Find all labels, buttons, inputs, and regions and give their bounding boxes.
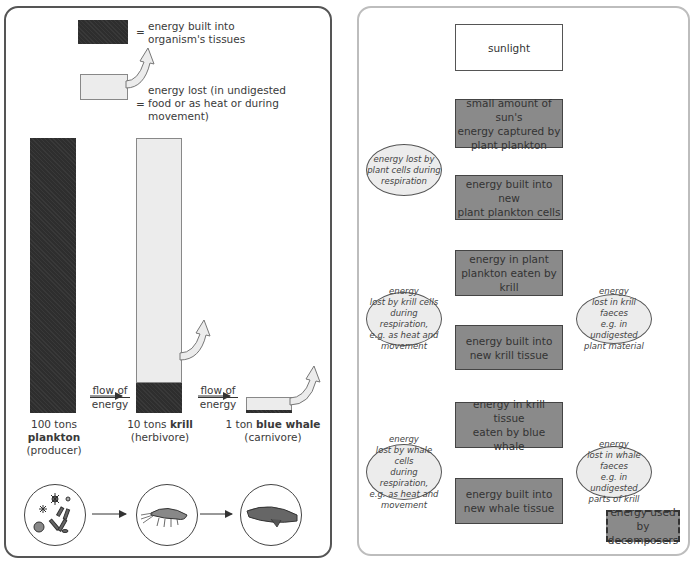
legend-light-line2: food or as heat or during bbox=[148, 97, 286, 110]
krill-tissue-box: energy built into new krill tissue bbox=[455, 325, 563, 370]
plant-cells-box: energy built into new plant plankton cel… bbox=[455, 175, 563, 220]
loss-krill-resp-l3: during respiration, bbox=[367, 308, 441, 330]
legend-dark-swatch bbox=[78, 20, 128, 44]
legend-dark-label: energy built into organism's tissues bbox=[148, 20, 245, 46]
level-whale-label: 1 ton blue whale (carnivore) bbox=[218, 418, 328, 444]
loss-whale-faeces-l4: parts of krill bbox=[577, 494, 651, 505]
flow-of-energy-label-1: flow of energy bbox=[90, 384, 130, 411]
loss-whale-faeces-l1: energy bbox=[577, 439, 651, 450]
captured-line2: energy captured by bbox=[456, 124, 562, 138]
loss-plant-l2: plant cells during bbox=[367, 165, 441, 176]
flow-label-line2: energy bbox=[198, 398, 238, 411]
loss-whale-resp-l5: movement bbox=[367, 500, 441, 511]
loss-whale-faeces-l2: lost in whale faeces bbox=[577, 450, 651, 472]
plankton-name: plankton bbox=[28, 431, 80, 443]
legend-light-line3: movement) bbox=[148, 110, 286, 123]
krill-amount: 10 tons bbox=[127, 418, 166, 430]
sunlight-label: sunlight bbox=[488, 41, 530, 55]
loss-krill-faeces-l3: e.g. in undigested bbox=[577, 319, 651, 341]
loss-whale-faeces-ellipse: energy lost in whale faeces e.g. in undi… bbox=[576, 446, 652, 498]
loss-krill-resp-l5: movement bbox=[367, 341, 441, 352]
legend-light-label: energy lost (in undigested food or as he… bbox=[148, 84, 286, 123]
decomposers-box: energy used by decomposers bbox=[606, 510, 680, 542]
krill-icon bbox=[136, 484, 198, 546]
energy-pyramid-panel: = energy built into organism's tissues =… bbox=[4, 6, 332, 558]
loss-whale-faeces-l3: e.g. in undigested bbox=[577, 472, 651, 494]
legend-equals-2: = bbox=[136, 98, 145, 111]
loss-krill-faeces-l2: lost in krill faeces bbox=[577, 297, 651, 319]
krill-lost-bar bbox=[136, 138, 182, 383]
loss-whale-resp-l4: e.g. as heat and bbox=[367, 489, 441, 500]
whale-built-bar bbox=[246, 410, 292, 413]
decomposers-line2: decomposers bbox=[608, 533, 678, 547]
flow-of-energy-label-2: flow of energy bbox=[198, 384, 238, 411]
whale-icon bbox=[240, 484, 302, 546]
eaten-krill-line2: plankton eaten by krill bbox=[456, 266, 562, 294]
krill-tissue-line1: energy built into bbox=[466, 334, 553, 348]
level-plankton-label: 100 tons plankton (producer) bbox=[6, 418, 102, 457]
krill-built-bar bbox=[136, 383, 182, 413]
loss-krill-resp-l2: lost by krill cells bbox=[367, 297, 441, 308]
captured-energy-box: small amount of sun's energy captured by… bbox=[455, 99, 563, 148]
flow-label-line1: flow of bbox=[198, 384, 238, 398]
legend-dark-line1: energy built into bbox=[148, 20, 245, 33]
whale-amount: 1 ton bbox=[226, 418, 253, 430]
captured-line3: plant plankton bbox=[456, 138, 562, 152]
loss-whale-resp-l1: energy bbox=[367, 434, 441, 445]
loss-plant-respiration-ellipse: energy lost by plant cells during respir… bbox=[366, 144, 442, 196]
whale-tissue-line1: energy built into bbox=[464, 487, 555, 501]
loss-krill-resp-l4: e.g. as heat and bbox=[367, 330, 441, 341]
whale-tissue-box: energy built into new whale tissue bbox=[455, 478, 563, 524]
whale-tissue-line2: new whale tissue bbox=[464, 501, 555, 515]
sunlight-box: sunlight bbox=[455, 24, 563, 71]
legend-equals-1: = bbox=[136, 26, 145, 39]
whale-lost-bar bbox=[246, 397, 292, 411]
krill-name: krill bbox=[170, 418, 193, 430]
plankton-bar bbox=[30, 138, 76, 413]
loss-krill-respiration-ellipse: energy lost by krill cells during respir… bbox=[366, 292, 442, 346]
plankton-role: (producer) bbox=[6, 444, 102, 457]
krill-role: (herbivore) bbox=[112, 431, 208, 444]
flow-label-line1: flow of bbox=[90, 384, 130, 398]
legend-light-line1: energy lost (in undigested bbox=[148, 84, 286, 97]
loss-plant-l3: respiration bbox=[367, 176, 441, 187]
loss-krill-resp-l1: energy bbox=[367, 286, 441, 297]
loss-plant-l1: energy lost by bbox=[367, 154, 441, 165]
krill-tissue-line2: new krill tissue bbox=[466, 348, 553, 362]
loss-whale-resp-l3: during respiration, bbox=[367, 467, 441, 489]
plankton-icon bbox=[24, 484, 86, 546]
loss-krill-faeces-l4: plant material bbox=[577, 341, 651, 352]
plant-cells-line2: plant plankton cells bbox=[456, 205, 562, 219]
legend-light-swatch bbox=[80, 74, 128, 100]
decomposers-line1: energy used by bbox=[608, 505, 678, 533]
krill-eats-plankton-box: energy in plant plankton eaten by krill bbox=[455, 250, 563, 296]
captured-line1: small amount of sun's bbox=[456, 96, 562, 124]
eaten-whale-line1: energy in krill tissue bbox=[456, 397, 562, 425]
level-krill-label: 10 tons krill (herbivore) bbox=[112, 418, 208, 444]
whale-name: blue whale bbox=[256, 418, 320, 430]
loss-whale-resp-l2: lost by whale cells bbox=[367, 445, 441, 467]
flow-label-line2: energy bbox=[90, 398, 130, 411]
plankton-amount: 100 tons bbox=[31, 418, 77, 430]
whale-role: (carnivore) bbox=[218, 431, 328, 444]
legend-dark-line2: organism's tissues bbox=[148, 33, 245, 46]
eaten-whale-line2: eaten by blue whale bbox=[456, 425, 562, 453]
loss-krill-faeces-l1: energy bbox=[577, 286, 651, 297]
whale-eats-krill-box: energy in krill tissue eaten by blue wha… bbox=[455, 402, 563, 448]
eaten-krill-line1: energy in plant bbox=[456, 252, 562, 266]
loss-krill-faeces-ellipse: energy lost in krill faeces e.g. in undi… bbox=[576, 294, 652, 344]
plant-cells-line1: energy built into new bbox=[456, 177, 562, 205]
loss-whale-respiration-ellipse: energy lost by whale cells during respir… bbox=[366, 444, 442, 500]
